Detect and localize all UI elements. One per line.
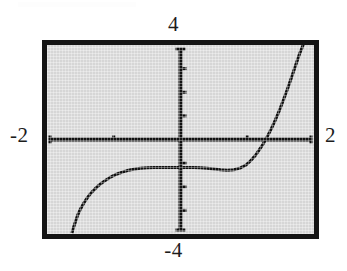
x-max-label: 2 bbox=[325, 125, 336, 146]
y-min-label: -4 bbox=[0, 240, 347, 261]
x-min-label: -2 bbox=[10, 125, 29, 146]
scan-artifact bbox=[18, 2, 136, 7]
y-max-label: 4 bbox=[0, 14, 347, 35]
calculator-screenshot: 4 -2 2 -4 bbox=[0, 0, 347, 271]
axis-layer bbox=[49, 48, 312, 231]
graph-plot bbox=[47, 45, 314, 234]
calculator-screen bbox=[42, 40, 319, 239]
